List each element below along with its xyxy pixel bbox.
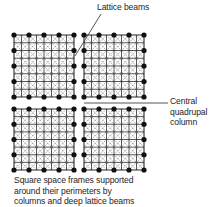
caption-line: Square space frames supported xyxy=(14,175,134,186)
caption-line: columns and deep lattice beams xyxy=(14,196,134,207)
central-column-label-line: quadrupal xyxy=(170,107,207,118)
lattice-beams-label: Lattice beams xyxy=(97,2,149,13)
central-column-label-line: Central xyxy=(170,96,207,107)
central-column-label: Central quadrupal column xyxy=(170,96,207,128)
caption-line: around their perimeters by xyxy=(14,186,134,197)
diagram-caption: Square space frames supported around the… xyxy=(14,175,134,207)
central-column-label-line: column xyxy=(170,117,207,128)
